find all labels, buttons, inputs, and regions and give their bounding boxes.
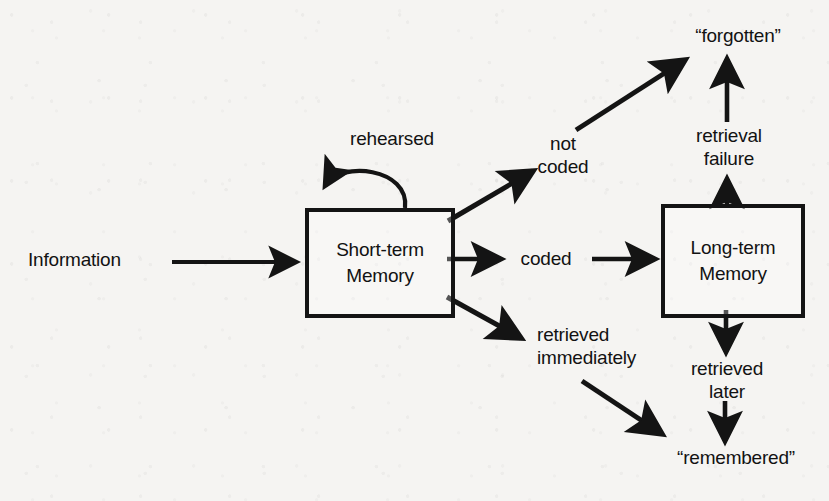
node-short-term-memory-line2: Memory <box>346 263 413 289</box>
label-retrieval-failure: retrieval failure <box>696 124 762 170</box>
label-retrieved-immediately-line1: retrieved <box>537 323 636 346</box>
label-retrieval-failure-line2: failure <box>696 147 762 170</box>
edge-short-term-to-not-coded <box>448 171 533 221</box>
label-not-coded: not coded <box>538 132 589 178</box>
node-short-term-memory-line1: Short-term <box>336 237 424 263</box>
memory-model-diagram: Short-term Memory Long-term Memory Infor… <box>0 0 829 501</box>
label-coded: coded <box>521 248 572 271</box>
label-information: Information <box>28 249 121 272</box>
label-not-coded-line2: coded <box>538 155 589 178</box>
edge-retrieved-immediately-to-remembered <box>582 381 662 434</box>
node-long-term-memory-line2: Memory <box>699 261 766 287</box>
label-retrieved-later: retrieved later <box>691 357 763 403</box>
label-retrieved-immediately: retrieved immediately <box>537 323 636 369</box>
label-rehearsed: rehearsed <box>350 128 434 151</box>
node-long-term-memory-line1: Long-term <box>691 235 776 261</box>
node-short-term-memory[interactable]: Short-term Memory <box>305 208 455 318</box>
label-retrieved-later-line1: retrieved <box>691 357 763 380</box>
label-retrieval-failure-line1: retrieval <box>696 124 762 147</box>
node-long-term-memory[interactable]: Long-term Memory <box>661 204 805 318</box>
edge-short-term-rehearsal-loop <box>325 171 405 208</box>
edge-not-coded-to-forgotten <box>576 60 685 130</box>
label-retrieved-later-line2: later <box>691 380 763 403</box>
label-retrieved-immediately-line2: immediately <box>537 346 636 369</box>
edge-short-term-to-retrieved-immediately <box>447 297 521 338</box>
label-remembered: “remembered” <box>677 447 795 470</box>
label-forgotten: “forgotten” <box>695 25 780 48</box>
label-not-coded-line1: not <box>538 132 589 155</box>
